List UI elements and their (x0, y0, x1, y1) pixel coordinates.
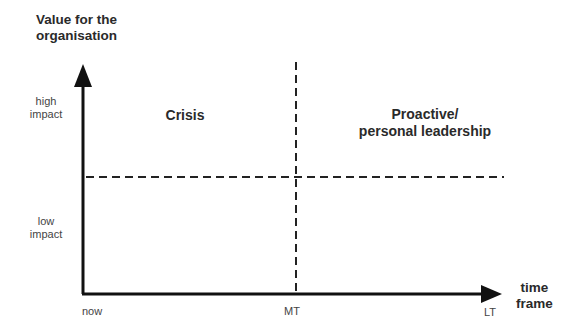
x-axis (82, 285, 502, 303)
x-axis-title-line2: frame (516, 296, 553, 312)
x-axis-title-line1: time (516, 280, 553, 296)
y-level-high-impact: high impact (24, 95, 68, 121)
y-level-low-line2: impact (24, 228, 68, 241)
y-axis-title: Value for the organisation (36, 12, 117, 44)
y-axis (74, 64, 92, 294)
quadrant-crisis-line1: Crisis (150, 107, 220, 124)
x-axis-arrowhead-icon (481, 285, 502, 303)
x-axis-title: time frame (516, 280, 553, 312)
x-tick-now: now (82, 305, 102, 318)
y-level-low-line1: low (24, 215, 68, 228)
y-level-high-line2: impact (24, 108, 68, 121)
quadrant-diagram: Value for the organisation high impact l… (0, 0, 574, 332)
y-level-low-impact: low impact (24, 215, 68, 241)
quadrant-proactive-line1: Proactive/ (325, 106, 525, 123)
y-level-high-line1: high (24, 95, 68, 108)
x-tick-mt: MT (284, 305, 300, 318)
quadrant-crisis-label: Crisis (150, 107, 220, 124)
quadrant-proactive-label: Proactive/ personal leadership (325, 106, 525, 140)
y-axis-arrowhead-icon (74, 64, 92, 87)
y-axis-title-line1: Value for the (36, 12, 117, 28)
y-axis-title-line2: organisation (36, 28, 117, 44)
x-tick-lt: LT (484, 306, 496, 319)
diagram-graphics (0, 0, 574, 332)
quadrant-proactive-line2: personal leadership (325, 123, 525, 140)
